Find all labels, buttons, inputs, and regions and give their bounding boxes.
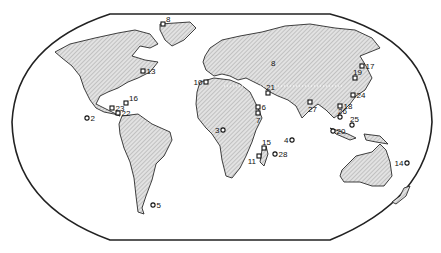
site-caribbean[interactable]: 16 — [124, 94, 138, 105]
square-marker-icon — [256, 111, 260, 115]
australia — [340, 144, 392, 186]
square-marker-icon — [141, 69, 145, 73]
world-map: 2345678810111314151617181920212223242526… — [0, 0, 441, 253]
circle-marker-icon — [85, 116, 89, 120]
site-gulf-of-aden[interactable]: 7 — [256, 111, 261, 125]
square-marker-icon — [308, 100, 312, 104]
site-mascarene-islands[interactable]: 28 — [273, 150, 288, 159]
site-label: 5 — [157, 201, 162, 210]
site-central-asia[interactable]: 8 — [271, 59, 276, 68]
square-marker-icon — [351, 93, 355, 97]
site-label: 8 — [166, 15, 171, 24]
circle-marker-icon — [221, 128, 225, 132]
site-indonesia[interactable]: 20 — [331, 127, 346, 136]
site-label: 4 — [284, 136, 289, 145]
circle-marker-icon — [273, 152, 277, 156]
site-south-atlantic-patagonia[interactable]: 5 — [151, 201, 162, 210]
circle-marker-icon — [338, 115, 342, 119]
circle-marker-icon — [151, 203, 155, 207]
square-marker-icon — [262, 146, 266, 150]
site-madagascar[interactable]: 11 — [248, 154, 261, 166]
circle-marker-icon — [405, 161, 409, 165]
new-guinea — [364, 134, 388, 144]
site-central-indian-ocean[interactable]: 4 — [284, 136, 294, 145]
site-label: 28 — [279, 150, 288, 159]
site-label: 19 — [353, 68, 362, 77]
site-label: 14 — [395, 159, 404, 168]
circle-marker-icon — [331, 129, 335, 133]
site-philippines[interactable]: 25 — [350, 115, 360, 128]
site-label: 13 — [147, 67, 156, 76]
site-label: 16 — [129, 94, 138, 103]
site-label: 21 — [266, 83, 275, 92]
site-label: 3 — [215, 126, 220, 135]
site-label: 8 — [271, 59, 276, 68]
site-label: 2 — [91, 114, 96, 123]
square-marker-icon — [353, 76, 357, 80]
site-label: 15 — [262, 138, 271, 147]
south-america — [119, 114, 172, 214]
site-label: 23 — [116, 104, 125, 113]
square-marker-icon — [161, 22, 165, 26]
square-marker-icon — [124, 101, 128, 105]
site-label: 25 — [350, 115, 359, 124]
site-eastern-pacific[interactable]: 2 — [85, 114, 96, 123]
site-label: 7 — [256, 116, 261, 125]
square-marker-icon — [110, 106, 114, 110]
site-label: 11 — [248, 157, 257, 166]
site-label: 26 — [338, 107, 347, 116]
site-label: 6 — [262, 103, 267, 112]
circle-marker-icon — [350, 123, 354, 127]
square-marker-icon — [204, 80, 208, 84]
new-zealand — [392, 186, 410, 204]
site-label: 17 — [366, 62, 375, 71]
site-vietnam[interactable]: 26 — [338, 107, 348, 120]
site-label: 24 — [357, 91, 366, 100]
circle-marker-icon — [290, 138, 294, 142]
site-south-pacific[interactable]: 14 — [395, 159, 410, 168]
square-marker-icon — [256, 105, 260, 109]
square-marker-icon — [257, 154, 261, 158]
square-marker-icon — [266, 91, 270, 95]
site-label: 10 — [194, 78, 203, 87]
site-label: 27 — [308, 105, 317, 114]
site-label: 20 — [337, 127, 346, 136]
